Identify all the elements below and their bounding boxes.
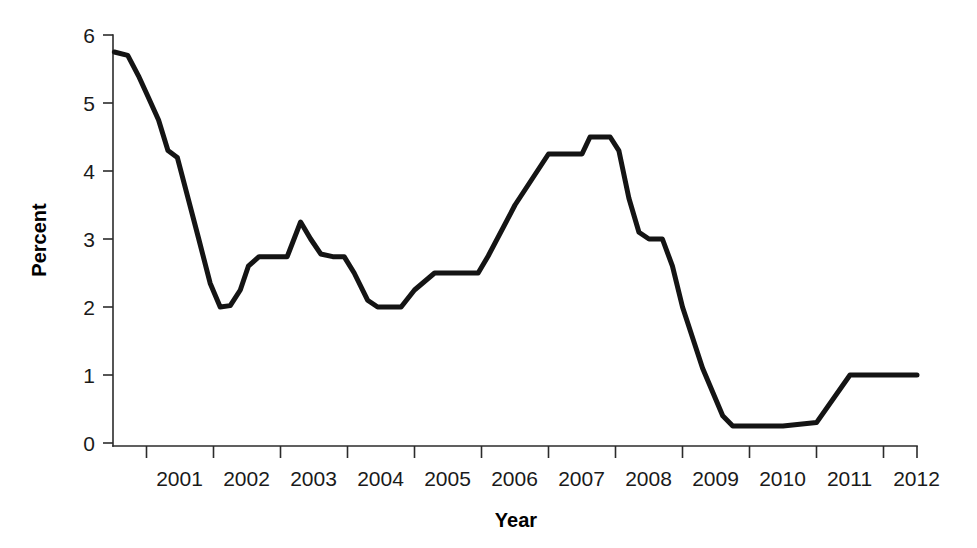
x-tick-label: 2010 [759, 467, 806, 490]
x-tick-label: 2002 [223, 467, 270, 490]
x-tick-label: 2006 [491, 467, 538, 490]
y-axis-ticks: 0123456 [83, 24, 113, 455]
x-tick-label: 2005 [424, 467, 471, 490]
x-tick-label: 2008 [625, 467, 672, 490]
x-tick-label: 2003 [290, 467, 337, 490]
plot-area: Percent Year 0123456 2001200220032004200… [0, 0, 977, 548]
y-tick-label: 5 [83, 92, 95, 115]
line-chart: Percent Year 0123456 2001200220032004200… [0, 0, 977, 548]
x-tick-label: 2004 [357, 467, 404, 490]
x-tick-label: 2012 [893, 467, 940, 490]
x-axis-ticks: 2001200220032004200520062007200820092010… [147, 446, 940, 490]
y-tick-label: 2 [83, 296, 95, 319]
x-tick-label: 2007 [558, 467, 605, 490]
x-axis-title: Year [495, 509, 537, 531]
x-tick-label: 2009 [692, 467, 739, 490]
y-tick-label: 3 [83, 228, 95, 251]
y-tick-label: 4 [83, 160, 95, 183]
x-tick-label: 2001 [156, 467, 203, 490]
y-tick-label: 1 [83, 364, 95, 387]
y-tick-label: 6 [83, 24, 95, 47]
x-tick-label: 2011 [827, 467, 872, 490]
y-axis-title: Percent [28, 203, 50, 277]
data-line [114, 52, 917, 426]
y-tick-label: 0 [83, 432, 95, 455]
data-series-group [114, 52, 917, 426]
